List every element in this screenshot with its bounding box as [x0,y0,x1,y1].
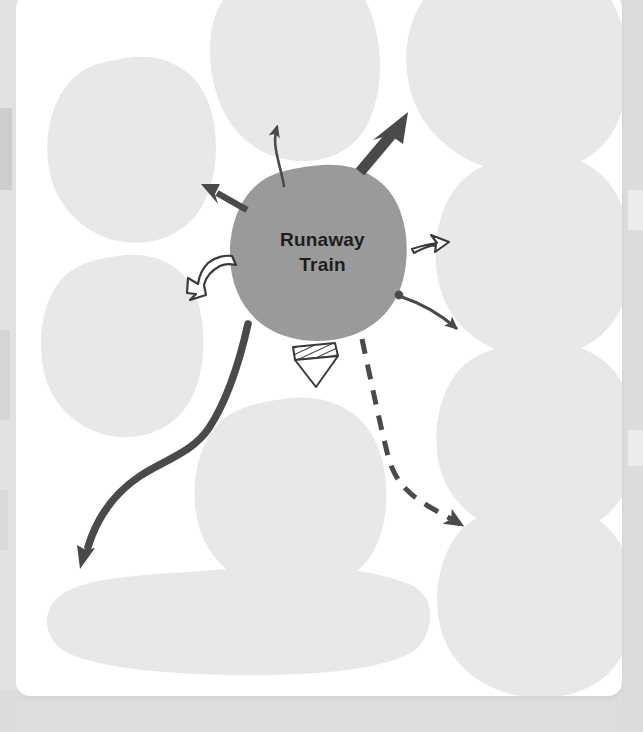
backdrop-strip [622,0,643,732]
blob-bottom-center[interactable] [195,397,387,593]
backdrop-strip [0,490,8,550]
hatched-triangle-tip [295,356,338,387]
backdrop-strip [628,430,643,466]
mindmap-svg [16,0,622,696]
mindmap-canvas: Runaway Train [16,0,622,696]
blob-top-right[interactable] [406,0,622,174]
blob-left-upper[interactable] [47,57,216,243]
connector-down-hatched[interactable] [293,343,338,387]
blob-top[interactable] [210,0,380,161]
blob-bottom-wide[interactable] [47,566,431,675]
connector-up-right-thick[interactable] [360,134,392,172]
blob-bottom-right[interactable] [437,504,622,696]
worksheet-card: Runaway Train [16,0,622,696]
backdrop-strip [628,190,643,230]
backdrop-strip [0,690,643,732]
connector-left-outline[interactable] [187,256,236,300]
backdrop-strip [0,108,12,190]
blob-right-upper[interactable] [436,153,622,358]
blob-left-lower[interactable] [41,255,204,437]
connector-up-left-solid[interactable] [217,193,247,210]
center-blob[interactable] [230,165,407,341]
backdrop-strip [0,330,10,420]
